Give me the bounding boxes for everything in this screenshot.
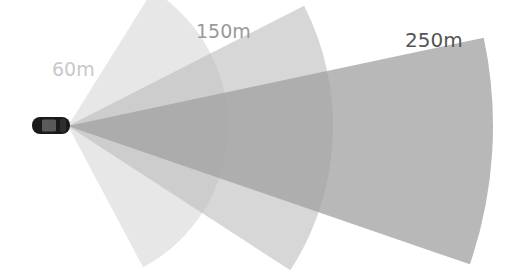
range-label-250m: 250m (405, 28, 463, 52)
range-label-150m: 150m (196, 20, 251, 42)
car-icon (32, 117, 70, 134)
range-label-60m: 60m (52, 58, 95, 80)
